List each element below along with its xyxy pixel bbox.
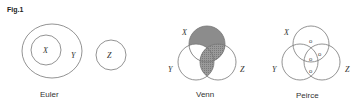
peirce-label-z: Z [345, 65, 350, 74]
venn-diagram: X Y Z Venn [168, 26, 245, 99]
venn-label-y: Y [168, 65, 174, 74]
figure-canvas: Fig.1 X Y Z Euler X Y Z [0, 0, 355, 101]
venn-caption: Venn [196, 90, 214, 99]
euler-diagram: X Y Z Euler [22, 24, 126, 99]
figure-label: Fig.1 [7, 6, 23, 14]
peirce-label-x: X [283, 28, 290, 37]
euler-caption: Euler [40, 90, 59, 99]
peirce-caption: Peirce [296, 91, 319, 100]
peirce-label-y: Y [272, 65, 278, 74]
venn-label-x: X [181, 28, 188, 37]
euler-label-z: Z [107, 51, 112, 60]
peirce-mark-xz: o [318, 51, 322, 57]
euler-label-x: X [42, 46, 49, 55]
peirce-mark-xyz: o [309, 56, 313, 62]
euler-label-y: Y [71, 51, 77, 60]
peirce-mark-x-only: o [309, 38, 313, 44]
peirce-mark-yz: o [309, 68, 313, 74]
peirce-diagram: X Y Z o o o o Peirce [272, 26, 350, 100]
venn-label-z: Z [240, 65, 245, 74]
